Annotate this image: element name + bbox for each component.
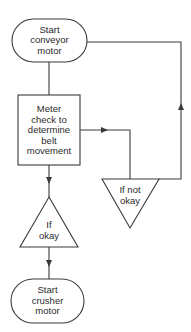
flowchart-canvas bbox=[0, 0, 191, 332]
if-not-okay-label: If not okay bbox=[119, 185, 140, 206]
start-conveyor-label: Start conveyor motor bbox=[30, 25, 69, 57]
start-crusher-label: Start crusher motor bbox=[32, 285, 64, 317]
arrow-right-icon bbox=[101, 127, 108, 133]
connector-meter-to-not-okay bbox=[80, 130, 130, 179]
arrow-down-icon bbox=[46, 177, 52, 184]
meter-check-label: Meter check to determine belt movement bbox=[27, 104, 71, 157]
if-okay-label: If okay bbox=[39, 220, 59, 241]
arrow-up-icon bbox=[178, 103, 184, 110]
connector-not-okay-loop bbox=[87, 42, 181, 179]
arrow-down-icon bbox=[46, 260, 52, 267]
